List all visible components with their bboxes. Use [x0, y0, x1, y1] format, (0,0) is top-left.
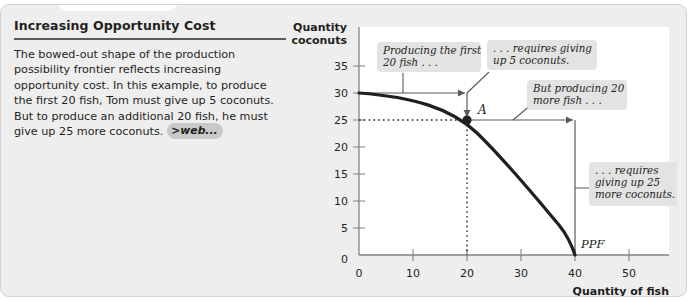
caption-block: Increasing Opportunity Cost The bowed-ou… [14, 18, 286, 140]
y-axis-title-line2: of coconuts [291, 34, 347, 47]
title-divider [14, 38, 286, 40]
callout-line-2: more fish . . . [533, 94, 602, 106]
callout-requires-giving-up-5-coconuts: . . . requires giving up 5 coconuts. [487, 40, 597, 70]
y-tick-label-20: 20 [334, 141, 348, 154]
callout-line-1: . . . requires [595, 164, 658, 176]
point-a-label: A [477, 103, 487, 117]
x-tick-label-20: 20 [460, 267, 474, 280]
callout-line-1: . . . requires giving [493, 42, 592, 54]
x-tick-label-40: 40 [568, 267, 582, 280]
callout-but-producing-20-more-fish: But producing 20 more fish . . . [527, 80, 627, 110]
y-tick-label-5: 5 [341, 222, 348, 235]
y-tick-label-15: 15 [334, 168, 348, 181]
x-tick-label-10: 10 [406, 267, 420, 280]
callout-line-2: up 5 coconuts. [493, 54, 569, 66]
ppf-chart: 35 30 25 20 15 10 5 0 0 10 20 30 40 50 Q… [291, 13, 687, 297]
callout-producing-first-20-fish: Producing the first 20 fish . . . [377, 42, 482, 72]
y-tick-label-25: 25 [334, 114, 348, 127]
web-link[interactable]: >web... [167, 123, 222, 139]
callout-requires-giving-up-25-more-coconuts: . . . requires giving up 25 more coconut… [589, 162, 677, 206]
figure-caption-text: The bowed-out shape of the production po… [14, 47, 286, 140]
point-a-marker [462, 115, 471, 124]
x-axis-title: Quantity of fish [573, 285, 669, 297]
callout-line-2: giving up 25 [595, 176, 660, 188]
figure-card: Increasing Opportunity Cost The bowed-ou… [0, 4, 687, 297]
callout-line-2: 20 fish . . . [382, 56, 438, 68]
callout-line-3: more coconuts. [595, 188, 675, 200]
ppf-curve-label: PPF [580, 237, 605, 251]
y-tick-label-10: 10 [334, 195, 348, 208]
x-tick-label-30: 30 [514, 267, 528, 280]
callout-line-1: But producing 20 [532, 82, 625, 94]
x-tick-label-50: 50 [622, 267, 636, 280]
callout-line-1: Producing the first [382, 44, 482, 56]
y-tick-label-35: 35 [334, 60, 348, 73]
caption-paragraph: The bowed-out shape of the production po… [14, 48, 274, 138]
figure-tab-stub [58, 4, 178, 11]
y-tick-label-30: 30 [334, 87, 348, 100]
x-tick-label-0: 0 [356, 267, 363, 280]
figure-title: Increasing Opportunity Cost [14, 18, 286, 33]
y-tick-label-0: 0 [341, 253, 348, 266]
y-axis-title-line1: Quantity [293, 21, 347, 34]
